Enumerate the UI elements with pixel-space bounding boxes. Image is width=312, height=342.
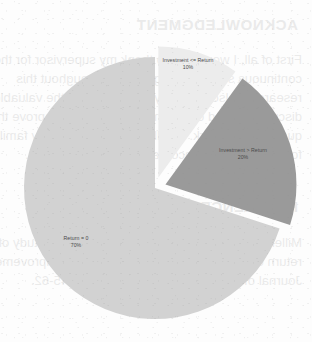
slice-label-name: Investment <= Return	[151, 57, 225, 64]
pie-slice-label-investment-le-return: Investment <= Return 10%	[151, 57, 225, 70]
slice-label-percent: 20%	[205, 154, 281, 161]
pie-slice-group	[24, 47, 296, 319]
scanned-page: ACKNOWLEDGMENT First of all, I would lik…	[0, 0, 312, 342]
pie-slice-label-investment-gt-return: Investment > Return 20%	[205, 147, 281, 160]
slice-label-name: Investment > Return	[205, 147, 281, 154]
pie-slice-label-return-equals-zero: Return = 0 70%	[46, 235, 106, 248]
slice-label-percent: 10%	[151, 64, 225, 71]
pie-chart-svg	[0, 0, 312, 342]
slice-label-name: Return = 0	[46, 235, 106, 242]
pie-chart: Investment <= Return 10% Investment > Re…	[0, 0, 312, 342]
slice-label-percent: 70%	[46, 242, 106, 249]
